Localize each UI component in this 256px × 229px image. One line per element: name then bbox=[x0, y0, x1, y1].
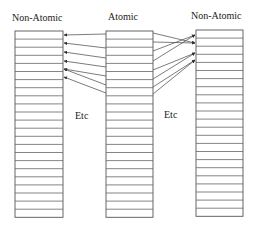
right-column-frame bbox=[196, 30, 243, 216]
middle-column-frame bbox=[106, 31, 153, 217]
middle-column-title: Atomic bbox=[108, 11, 139, 22]
mapping-arrow bbox=[64, 69, 106, 85]
mapping-arrow bbox=[64, 34, 106, 35]
right-column bbox=[196, 30, 243, 216]
mapping-arrow bbox=[64, 69, 106, 76]
mapping-arrow bbox=[64, 61, 106, 67]
mapping-arrow bbox=[64, 43, 106, 48]
diagram-canvas: Non-Atomic Atomic Non-Atomic Etc Etc bbox=[0, 0, 256, 229]
mapping-arrow bbox=[64, 77, 106, 93]
left-column bbox=[15, 31, 63, 217]
mapping-arrow bbox=[153, 33, 195, 43]
memory-columns bbox=[15, 30, 243, 217]
right-column-title: Non-Atomic bbox=[191, 10, 242, 21]
mapping-arrow bbox=[153, 60, 195, 87]
left-column-title: Non-Atomic bbox=[12, 12, 63, 23]
right-etc-label: Etc bbox=[164, 109, 178, 120]
middle-column bbox=[106, 31, 153, 217]
mapping-arrow bbox=[64, 52, 106, 58]
left-column-frame bbox=[15, 31, 63, 217]
left-etc-label: Etc bbox=[75, 110, 89, 121]
mapping-arrow bbox=[153, 60, 195, 94]
atomic-mapping-diagram: Non-Atomic Atomic Non-Atomic Etc Etc bbox=[0, 0, 256, 229]
mapping-arrow bbox=[153, 53, 195, 70]
